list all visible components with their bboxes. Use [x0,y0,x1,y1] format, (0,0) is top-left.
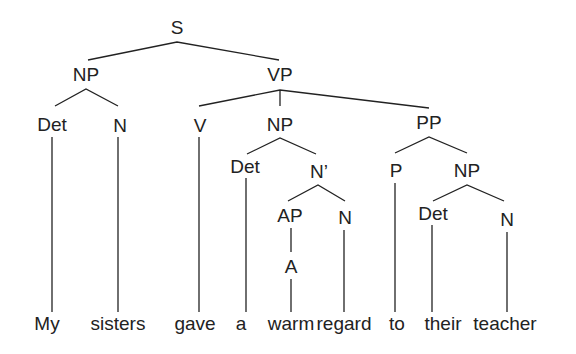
word-to: to [389,313,405,334]
node-n-bar: N’ [310,161,328,182]
node-vp: VP [267,64,292,85]
node-n-pp: N [500,209,514,230]
word-teacher: teacher [473,313,537,334]
edge-s [88,42,279,60]
word-my: My [34,313,60,334]
edge-np-obj [247,138,316,154]
node-det-object: Det [230,156,260,177]
terminal-words: My sisters gave a warm regard to their t… [34,313,537,334]
edge-np-pp [433,185,504,201]
node-det-pp: Det [418,203,448,224]
word-gave: gave [174,313,215,334]
word-a: a [236,313,247,334]
node-np-subject: NP [73,64,99,85]
node-p: P [390,160,403,181]
edge-pp [395,137,467,153]
word-their: their [425,313,463,334]
edge-np-subj [55,89,118,106]
node-pp: PP [416,112,441,133]
word-warm: warm [267,313,314,334]
word-sisters: sisters [91,313,146,334]
word-regard: regard [317,313,372,334]
node-ap: AP [277,205,302,226]
node-det-subject: Det [37,114,67,135]
node-v: V [194,115,207,136]
node-np-object: NP [267,114,293,135]
syntax-tree-diagram: S NP VP Det N V NP PP Det N’ P NP AP N D… [0,0,576,354]
edge-nbar [288,185,345,201]
edge-vp [199,90,429,108]
node-s: S [171,17,184,38]
node-n-object: N [338,207,352,228]
node-a: A [285,256,298,277]
node-np-pp: NP [454,160,480,181]
node-n-subject: N [113,115,127,136]
